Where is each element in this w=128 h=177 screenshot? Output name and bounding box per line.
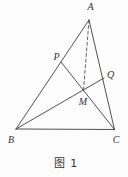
point-label-M: M xyxy=(78,96,88,107)
segment-B-Q xyxy=(16,78,104,129)
segment-A-M xyxy=(84,20,90,91)
point-label-C: C xyxy=(113,134,120,145)
point-label-P: P xyxy=(52,51,59,62)
segment-B-C xyxy=(16,129,115,130)
triangle-diagram: ABCPQM 图 1 xyxy=(0,0,128,177)
point-label-A: A xyxy=(86,1,94,12)
geometry-figure: ABCPQM 图 1 xyxy=(0,0,128,177)
segments-layer xyxy=(16,20,115,130)
figure-caption: 图 1 xyxy=(54,157,79,170)
segment-A-B xyxy=(16,20,89,129)
point-label-B: B xyxy=(8,134,14,145)
labels-layer: ABCPQM xyxy=(8,1,120,145)
point-label-Q: Q xyxy=(107,69,115,80)
